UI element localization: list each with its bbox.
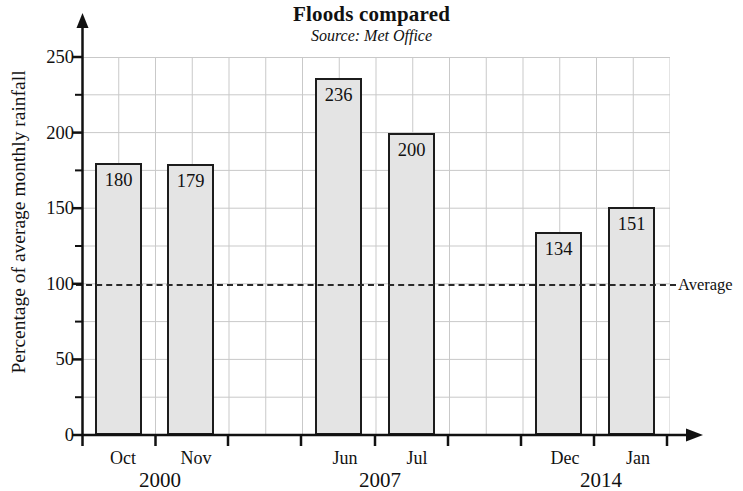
y-tick-250: 250	[30, 48, 74, 67]
chart-subtitle-source: Source: Met Office	[0, 27, 743, 45]
x-label-jul: Jul	[387, 448, 447, 469]
x-group-label-2014: 2014	[566, 468, 636, 491]
flood-bar-chart: Floods compared Source: Met Office Perce…	[0, 0, 743, 491]
x-label-nov: Nov	[166, 448, 226, 469]
x-label-dec: Dec	[535, 448, 595, 469]
bar-nov-2000[interactable]: 179	[167, 164, 214, 435]
x-axis-arrow	[686, 429, 703, 442]
y-tick-150: 150	[30, 199, 74, 218]
y-tick-100: 100	[30, 275, 74, 294]
plot-area: 180 179 236 200 134 151	[82, 57, 670, 435]
y-tick-200: 200	[30, 124, 74, 143]
bar-value-jul-2007: 200	[390, 140, 433, 161]
average-label: Average	[678, 275, 733, 295]
bar-value-jan-2014: 151	[610, 214, 653, 235]
bar-jun-2007[interactable]: 236	[315, 78, 362, 435]
y-tick-0: 0	[30, 426, 74, 445]
bar-value-oct-2000: 180	[97, 170, 140, 191]
x-label-jun: Jun	[315, 448, 375, 469]
bar-oct-2000[interactable]: 180	[95, 163, 142, 435]
bar-value-jun-2007: 236	[317, 85, 360, 106]
chart-title: Floods compared	[0, 2, 743, 27]
bar-value-nov-2000: 179	[169, 171, 212, 192]
average-line	[76, 284, 676, 286]
bar-value-dec-2014: 134	[537, 239, 580, 260]
x-ticks	[83, 435, 668, 446]
x-label-oct: Oct	[93, 448, 153, 469]
bar-dec-2014[interactable]: 134	[535, 232, 582, 435]
bar-jan-2014[interactable]: 151	[608, 207, 655, 435]
x-label-jan: Jan	[608, 448, 668, 469]
x-group-label-2007: 2007	[345, 468, 415, 491]
x-group-label-2000: 2000	[125, 468, 195, 491]
y-tick-50: 50	[30, 350, 74, 369]
y-axis-tick-labels: 250 200 150 100 50 0	[22, 57, 74, 435]
